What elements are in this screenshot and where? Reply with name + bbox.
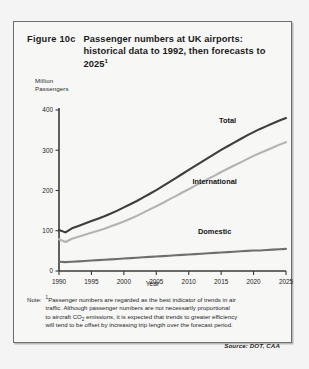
source-attribution: Source: DOT, CAA [224,342,280,349]
note-line-3-b: emissions, it is expected that trends to… [84,313,237,320]
figure-container: Figure 10c Passenger numbers at UK airpo… [13,21,292,343]
y-axis-ticks: 0100200300400 [42,106,59,274]
series-label-international: International [192,177,236,186]
y-axis-tick-label: 0 [49,267,53,274]
y-axis-tick-label: 200 [42,187,53,194]
series-label-total: Total [219,116,236,125]
y-axis-tick-label: 300 [42,147,53,154]
x-axis-label: Year [14,280,291,287]
y-axis-tick-label: 100 [42,227,53,234]
series-line-domestic [59,249,286,262]
note-text: 1Passenger numbers are regarded as the b… [46,296,238,330]
chart-series-group [59,118,286,262]
series-label-domestic: Domestic [198,227,231,236]
series-line-total [59,118,286,232]
figure-note: Note: 1Passenger numbers are regarded as… [27,296,280,330]
note-line-4: will tend to be offset by increasing tri… [46,321,233,328]
note-label: Note: [27,296,46,330]
y-axis-tick-label: 400 [42,106,53,113]
note-line-3-a: to aircraft CO [46,313,82,320]
note-line-1: Passenger numbers are regarded as the be… [48,296,236,303]
series-line-international [59,142,286,242]
note-line-2: traffic. Although passenger numbers are … [46,304,230,311]
